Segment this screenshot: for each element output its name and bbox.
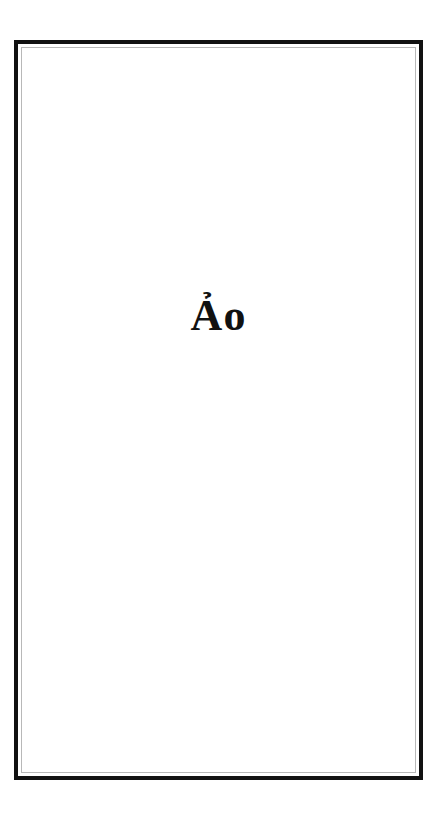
flashcard-word: Ảo	[22, 294, 415, 338]
flashcard-inner-frame: Ảo	[21, 47, 416, 773]
flashcard: Ảo	[14, 40, 423, 780]
